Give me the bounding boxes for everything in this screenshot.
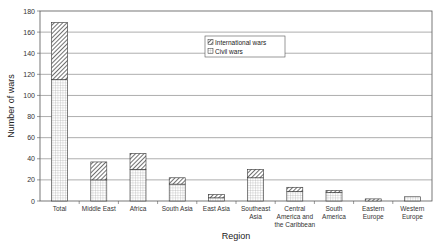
x-tick-label: Middle East <box>82 205 116 212</box>
x-tick-label: Eastern <box>362 205 385 212</box>
stacked-bar-chart: 020406080100120140160180Number of warsTo… <box>0 0 437 252</box>
x-axis-label: Region <box>222 231 251 241</box>
bar-international-wars <box>52 23 68 80</box>
bar-civil-wars <box>52 80 68 201</box>
legend-swatch-international <box>208 40 213 45</box>
bar-international-wars <box>248 169 264 177</box>
bar-civil-wars <box>404 197 420 201</box>
y-tick-label: 180 <box>23 8 35 15</box>
y-tick-label: 80 <box>27 113 35 120</box>
y-tick-label: 120 <box>23 71 35 78</box>
bar-civil-wars <box>287 192 303 202</box>
bar-international-wars <box>91 162 107 180</box>
bar-civil-wars <box>130 169 146 201</box>
bar-civil-wars <box>169 184 185 201</box>
x-tick-label: Asia <box>249 213 262 220</box>
y-tick-label: 140 <box>23 50 35 57</box>
legend-label-international: International wars <box>215 39 267 46</box>
bar-international-wars <box>287 187 303 191</box>
x-tick-label: South Asia <box>162 205 193 212</box>
x-tick-label: Western <box>400 205 424 212</box>
bar-civil-wars <box>326 193 342 201</box>
legend-label-civil: Civil wars <box>215 48 244 55</box>
y-tick-label: 60 <box>27 134 35 141</box>
y-tick-label: 160 <box>23 29 35 36</box>
legend-swatch-civil <box>208 49 213 54</box>
y-tick-label: 100 <box>23 92 35 99</box>
x-tick-label: Europe <box>402 213 423 221</box>
x-tick-label: Africa <box>130 205 147 212</box>
y-tick-label: 20 <box>27 176 35 183</box>
y-tick-label: 40 <box>27 155 35 162</box>
bar-international-wars <box>365 199 381 201</box>
x-tick-label: America <box>322 213 346 220</box>
x-tick-label: Southeast <box>241 205 270 212</box>
x-tick-label: America and <box>277 213 314 220</box>
x-tick-label: Total <box>53 205 67 212</box>
x-tick-label: Central <box>284 205 306 212</box>
x-tick-label: Europe <box>363 213 384 221</box>
bar-civil-wars <box>208 198 224 201</box>
bar-civil-wars <box>248 178 264 201</box>
x-tick-label: East Asia <box>203 205 230 212</box>
x-tick-label: South <box>326 205 343 212</box>
bar-civil-wars <box>91 180 107 201</box>
bar-international-wars <box>208 195 224 198</box>
x-tick-label: the Caribbean <box>274 221 315 228</box>
bar-international-wars <box>326 190 342 192</box>
y-axis-label: Number of wars <box>6 74 16 138</box>
bar-international-wars <box>169 178 185 184</box>
y-tick-label: 0 <box>31 198 35 205</box>
bar-international-wars <box>130 154 146 170</box>
